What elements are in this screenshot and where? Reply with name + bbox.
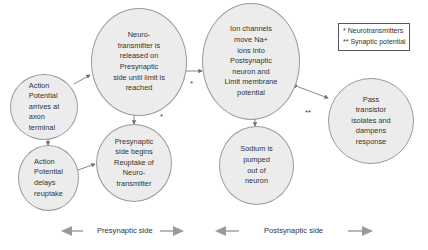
node-action-potential-arrives: Action Potential arrives at axon termina… bbox=[10, 74, 78, 140]
node-label: Action Potential arrives at axon termina… bbox=[29, 81, 59, 134]
legend-item-synaptic-potential: ** Synaptic potential bbox=[343, 37, 405, 48]
presynaptic-side-label: Presynaptic side bbox=[97, 226, 153, 235]
node-neurotransmitter-released: Neuro- transmitter is released on Presyn… bbox=[91, 8, 187, 116]
node-ion-channels: Ion channels move Na+ ions into Postsyna… bbox=[202, 3, 300, 120]
marker-neurotransmitter-between-released-and-ion: * bbox=[190, 79, 193, 88]
arrow-arrives-to-released bbox=[74, 75, 90, 84]
node-label: Pass transistor isolates and dampens res… bbox=[351, 95, 390, 148]
node-label: Presynaptic side begins Reuptake of Neur… bbox=[114, 137, 154, 190]
legend-text: Neurotransmitters bbox=[348, 27, 404, 34]
node-label: Neuro- transmitter is released on Presyn… bbox=[113, 30, 165, 94]
node-pass-transistor: Pass transistor isolates and dampens res… bbox=[328, 78, 414, 164]
legend-item-neurotransmitters: * Neurotransmitters bbox=[343, 26, 405, 37]
node-label: Sodium is pumped out of neuron bbox=[240, 144, 272, 186]
legend-symbol: * bbox=[343, 27, 346, 34]
diagram-canvas: Action Potential arrives at axon termina… bbox=[0, 0, 428, 250]
postsynaptic-side-label: Postsynaptic side bbox=[264, 226, 323, 235]
presynaptic-left-arrow bbox=[61, 226, 83, 236]
node-presynaptic-reuptake: Presynaptic side begins Reuptake of Neur… bbox=[96, 124, 172, 202]
arrow-ion-channels-to-pass-transistor bbox=[296, 86, 328, 98]
legend: * Neurotransmitters ** Synaptic potentia… bbox=[338, 23, 410, 51]
postsynaptic-right-arrow bbox=[348, 226, 373, 236]
marker-synaptic-potential: ** bbox=[305, 108, 311, 117]
postsynaptic-left-arrow bbox=[215, 226, 239, 236]
node-action-potential-delays: Action Potential delays reuptake bbox=[18, 145, 79, 211]
legend-symbol: ** bbox=[343, 38, 348, 45]
marker-neurotransmitter-below-released: * bbox=[160, 112, 163, 121]
node-label: Action Potential delays reuptake bbox=[34, 157, 63, 199]
presynaptic-right-arrow bbox=[160, 226, 184, 236]
node-sodium-pumped: Sodium is pumped out of neuron bbox=[219, 126, 294, 205]
arrow-delays-to-reuptake bbox=[78, 164, 95, 170]
node-label: Ion channels move Na+ ions into Postsyna… bbox=[225, 24, 278, 98]
legend-text: Synaptic potential bbox=[350, 38, 405, 45]
